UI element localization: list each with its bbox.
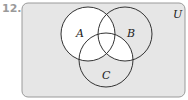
venn-diagram: A B C U [0, 0, 188, 100]
label-c: C [102, 69, 111, 82]
label-a: A [75, 27, 84, 40]
label-b: B [126, 27, 135, 40]
label-universe: U [173, 8, 183, 21]
